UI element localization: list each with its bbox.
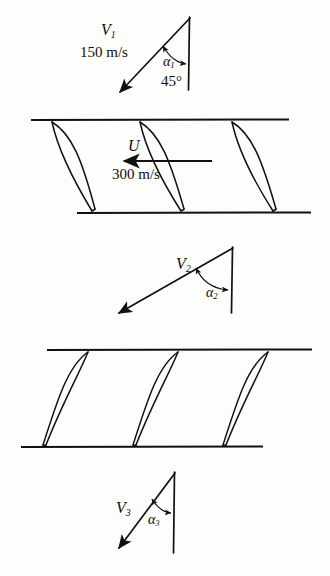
v1-label: V1 (101, 22, 116, 40)
alpha3-label: α3 (148, 513, 160, 528)
v1-subscript: 1 (111, 29, 116, 40)
cascade1-top-casing-line (31, 120, 289, 121)
alpha2-label: α2 (206, 286, 218, 301)
v2-label: V2 (176, 256, 191, 274)
blade-row1-item (232, 122, 276, 211)
alpha2-subscript: 2 (213, 291, 217, 301)
v3-subscript: 3 (126, 507, 131, 518)
cascade2-bottom-casing-line (21, 447, 263, 448)
alpha3-subscript: 3 (155, 518, 159, 528)
v3-label: V3 (116, 500, 131, 518)
blade-row2-item (223, 352, 268, 445)
alpha1-value-label: 45° (161, 74, 182, 89)
u-label: U (128, 138, 140, 154)
v1-magnitude-label: 150 m/s (80, 45, 128, 60)
u-magnitude-label: 300 m/s (112, 167, 160, 182)
alpha1-subscript: 1 (170, 60, 174, 70)
axial-reference-line-1 (189, 17, 190, 90)
v2-subscript: 2 (186, 263, 191, 274)
axial-reference-line-3 (174, 472, 175, 553)
axial-reference-line-2 (232, 247, 233, 313)
alpha1-label: α1 (163, 55, 175, 70)
cascade1-bottom-casing-line (77, 213, 311, 214)
cascade2-top-casing-line (47, 350, 312, 351)
blade-cascade-2 (21, 350, 312, 448)
blade-row2-item (133, 352, 178, 445)
blade-row1-item (52, 122, 95, 211)
blade-cascade-1 (31, 120, 311, 214)
blade-row2-item (43, 352, 88, 445)
